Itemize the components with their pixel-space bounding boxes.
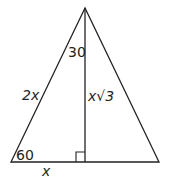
base-segment-label: x bbox=[41, 163, 51, 179]
triangle-diagram: 30 2x x√3 60 x bbox=[0, 0, 173, 183]
altitude-label: x√3 bbox=[87, 88, 114, 104]
hypotenuse-label: 2x bbox=[22, 87, 40, 103]
bottom-left-angle-label: 60 bbox=[16, 147, 34, 163]
right-angle-marker bbox=[76, 152, 85, 162]
top-angle-label: 30 bbox=[68, 44, 86, 60]
